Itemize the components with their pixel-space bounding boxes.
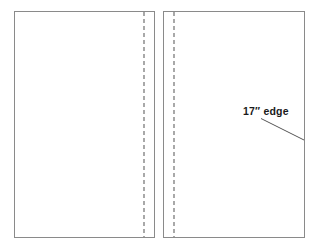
diagram-canvas: 17″ edge (0, 0, 321, 250)
fabric-fold-diagram: 17″ edge (0, 0, 321, 250)
edge-callout-label: 17″ edge (243, 105, 289, 117)
right-panel-rect (164, 12, 305, 238)
left-panel-rect (15, 12, 155, 238)
